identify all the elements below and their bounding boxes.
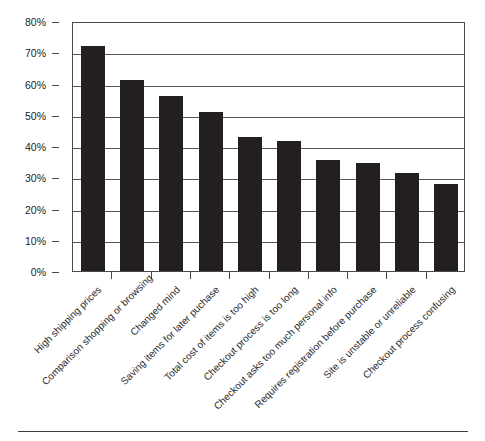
y-tick-label: 50% <box>0 111 46 121</box>
x-axis-labels: High shipping pricesComparison shopping … <box>0 272 485 422</box>
x-category-label: High shipping prices <box>32 284 103 355</box>
bar <box>159 96 183 271</box>
y-tick-mark <box>52 85 59 86</box>
y-tick-label: 40% <box>0 142 46 152</box>
y-tick-mark <box>52 53 59 54</box>
bar <box>120 80 144 271</box>
y-tick-mark <box>52 178 59 179</box>
bar <box>434 184 458 271</box>
y-tick-mark <box>52 241 59 242</box>
x-label-wrapper: High shipping prices <box>28 284 103 359</box>
y-tick-mark <box>52 210 59 211</box>
footer-divider <box>18 431 468 432</box>
bar-chart-figure: 0%10%20%30%40%50%60%70%80% High shipping… <box>0 0 485 441</box>
gridline <box>73 54 464 55</box>
y-tick-label: 20% <box>0 205 46 215</box>
y-tick-mark <box>52 22 59 23</box>
plot-area <box>72 22 465 272</box>
bar <box>277 141 301 271</box>
bar <box>356 163 380 271</box>
y-tick-label: 60% <box>0 80 46 90</box>
bar <box>81 46 105 271</box>
y-tick-label: 80% <box>0 17 46 27</box>
bar <box>238 137 262 271</box>
y-tick-label: 30% <box>0 173 46 183</box>
bar <box>395 173 419 271</box>
y-tick-label: 10% <box>0 236 46 246</box>
bar <box>199 112 223 271</box>
bar <box>316 160 340 271</box>
y-tick-mark <box>52 147 59 148</box>
y-tick-mark <box>52 116 59 117</box>
y-tick-label: 70% <box>0 48 46 58</box>
